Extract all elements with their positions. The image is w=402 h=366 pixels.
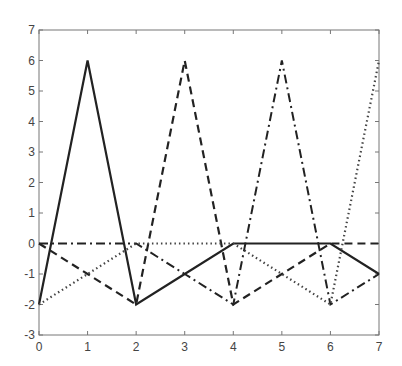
- x-tick-label: 7: [376, 340, 383, 354]
- y-tick-label: -1: [24, 267, 35, 281]
- x-tick-label: 6: [327, 340, 334, 354]
- x-tick-label: 5: [279, 340, 286, 354]
- x-tick-label: 1: [84, 340, 91, 354]
- x-tick-label: 0: [36, 340, 43, 354]
- y-tick-label: 5: [28, 84, 35, 98]
- x-tick-label: 3: [181, 340, 188, 354]
- y-tick-label: 2: [28, 176, 35, 190]
- y-tick-label: 4: [28, 115, 35, 129]
- series-dashed: [39, 61, 379, 305]
- x-tick-label: 4: [230, 340, 237, 354]
- y-tick-label: 1: [28, 206, 35, 220]
- y-tick-label: 0: [28, 237, 35, 251]
- x-tick-label: 2: [133, 340, 140, 354]
- y-tick-label: 3: [28, 145, 35, 159]
- y-tick-label: 6: [28, 54, 35, 68]
- y-tick-label: -2: [24, 298, 35, 312]
- y-tick-label: 7: [28, 23, 35, 37]
- line-chart: 01234567-3-2-101234567: [0, 0, 402, 366]
- series-group: [39, 61, 379, 305]
- y-tick-label: -3: [24, 328, 35, 342]
